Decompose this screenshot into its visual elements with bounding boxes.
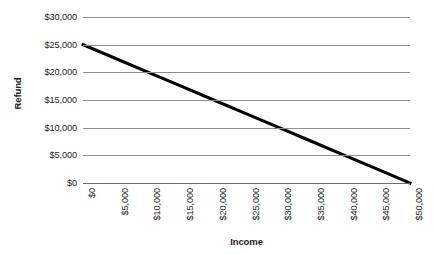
x-axis-title: Income: [83, 236, 410, 247]
x-tick-label: $30,000: [283, 188, 293, 242]
x-tick-label: $5,000: [120, 188, 130, 242]
x-axis-tick-labels: $0$5,000$10,000$15,000$20,000$25,000$30,…: [0, 0, 433, 254]
x-tick-label: $35,000: [316, 188, 326, 242]
x-tick-label: $45,000: [381, 188, 391, 242]
x-tick-label: $0: [87, 188, 97, 242]
x-tick-label: $50,000: [414, 188, 424, 242]
refund-vs-income-line-chart: Refund $30,000$25,000$20,000$15,000$10,0…: [0, 0, 433, 254]
x-tick-label: $20,000: [218, 188, 228, 242]
x-tick-label: $15,000: [185, 188, 195, 242]
x-tick-label: $25,000: [251, 188, 261, 242]
x-tick-label: $40,000: [349, 188, 359, 242]
x-tick-label: $10,000: [152, 188, 162, 242]
